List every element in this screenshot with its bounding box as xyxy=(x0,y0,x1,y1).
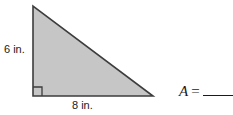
area-answer-prompt: A = xyxy=(179,84,233,99)
height-dimension-label: 6 in. xyxy=(4,44,25,55)
figure-canvas: 6 in. 8 in. A = xyxy=(0,0,233,115)
area-variable-label: A xyxy=(179,84,188,99)
base-dimension-label: 8 in. xyxy=(72,100,93,111)
area-answer-blank[interactable] xyxy=(203,84,233,96)
equals-sign: = xyxy=(191,84,199,99)
triangle-shape xyxy=(33,6,153,96)
